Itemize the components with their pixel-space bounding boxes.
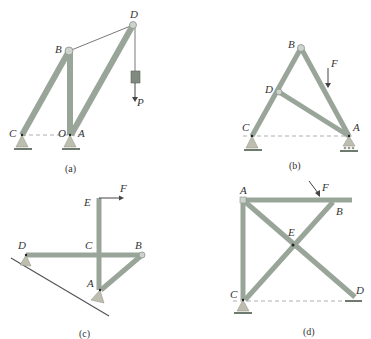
pin-a bbox=[99, 289, 101, 291]
support-a bbox=[91, 290, 104, 303]
panel-c: E F⃗ D C B A (c) bbox=[11, 182, 145, 339]
label-c: C bbox=[85, 239, 93, 251]
caption-c: (c) bbox=[79, 328, 90, 339]
hanging-mass bbox=[131, 71, 140, 83]
label-e: E bbox=[83, 196, 91, 208]
support-c bbox=[16, 135, 28, 147]
panel-b: B D C A F⃗ (b) bbox=[242, 38, 360, 172]
pin-e bbox=[292, 244, 295, 247]
member-ad bbox=[71, 25, 133, 135]
roller-wheel bbox=[344, 147, 347, 150]
pin-a bbox=[348, 135, 350, 137]
label-e: E bbox=[287, 226, 295, 238]
label-b: B bbox=[288, 38, 295, 50]
force-f-arrowhead bbox=[119, 196, 124, 201]
label-a: A bbox=[352, 121, 360, 133]
ground-c bbox=[234, 312, 252, 314]
support-c bbox=[246, 136, 258, 148]
label-c: C bbox=[230, 288, 238, 300]
label-b: B bbox=[135, 239, 142, 251]
caption-d: (d) bbox=[303, 326, 315, 338]
label-c: C bbox=[9, 127, 17, 139]
ground-oa bbox=[62, 148, 80, 150]
member-ab bbox=[101, 255, 142, 290]
ground-c bbox=[14, 148, 32, 150]
ground-a bbox=[340, 150, 358, 152]
label-f: F⃗ bbox=[119, 182, 135, 194]
pin-o bbox=[69, 134, 71, 136]
member-cb bbox=[245, 202, 333, 300]
label-b: B bbox=[336, 205, 343, 217]
joint-b bbox=[298, 45, 305, 52]
label-c: C bbox=[242, 121, 250, 133]
label-a: A bbox=[239, 184, 247, 196]
joint-b bbox=[65, 47, 73, 55]
caption-a: (a) bbox=[65, 163, 76, 175]
ground-d bbox=[345, 300, 362, 302]
label-f: F⃗ bbox=[321, 181, 337, 193]
joint-a bbox=[240, 197, 246, 203]
label-d: D bbox=[17, 239, 26, 251]
force-f-arrowhead bbox=[325, 83, 331, 88]
panel-a: B D C O A P⃗ (a) bbox=[9, 8, 152, 175]
inclined-ground bbox=[11, 258, 109, 316]
label-d: D bbox=[129, 8, 138, 20]
joint-d bbox=[276, 89, 282, 95]
label-p: P⃗ bbox=[136, 96, 152, 108]
label-o: O bbox=[58, 127, 66, 139]
label-a: A bbox=[86, 277, 94, 289]
force-f-arrowhead bbox=[315, 190, 320, 197]
ground-c bbox=[244, 149, 262, 151]
label-f: F⃗ bbox=[330, 57, 346, 69]
panel-d: A F⃗ B E C D (d) bbox=[230, 181, 364, 338]
label-a: A bbox=[77, 127, 85, 139]
roller-wheel bbox=[348, 147, 351, 150]
pin-d bbox=[25, 254, 27, 256]
label-d: D bbox=[264, 83, 273, 95]
support-a-roller bbox=[343, 136, 355, 146]
pin-c bbox=[21, 134, 23, 136]
pin-c bbox=[251, 135, 253, 137]
member-cb bbox=[22, 51, 69, 135]
frame-diagrams-figure: B D C O A P⃗ (a) B D C A F⃗ (b) bbox=[0, 0, 371, 339]
caption-b: (b) bbox=[289, 160, 301, 172]
pin-c bbox=[242, 299, 244, 301]
joint-b bbox=[139, 252, 145, 258]
support-c bbox=[237, 300, 249, 311]
label-b: B bbox=[55, 43, 62, 55]
force-f-line bbox=[309, 181, 318, 193]
roller-wheel bbox=[352, 147, 355, 150]
joint-d bbox=[130, 22, 137, 29]
label-d: D bbox=[355, 284, 364, 296]
